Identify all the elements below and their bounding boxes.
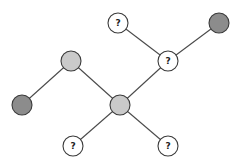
question-mark-label: ? — [115, 18, 120, 28]
edges-layer — [22, 23, 219, 146]
question-mark-label: ? — [70, 141, 75, 151]
question-mark-label: ? — [165, 141, 170, 151]
node-light — [110, 95, 130, 115]
node-dark — [12, 95, 32, 115]
dark-node-circle — [209, 13, 229, 33]
node-unknown: ? — [158, 51, 178, 71]
question-mark-label: ? — [165, 56, 170, 66]
light-node-circle — [110, 95, 130, 115]
node-unknown: ? — [63, 136, 83, 156]
dark-node-circle — [12, 95, 32, 115]
node-light — [61, 51, 81, 71]
light-node-circle — [61, 51, 81, 71]
node-unknown: ? — [108, 13, 128, 33]
node-dark — [209, 13, 229, 33]
graph-diagram: ???? — [0, 0, 240, 168]
node-unknown: ? — [158, 136, 178, 156]
